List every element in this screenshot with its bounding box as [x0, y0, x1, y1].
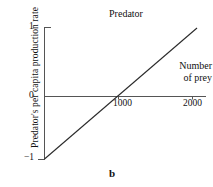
- y-tick-label-0: 0: [29, 90, 34, 100]
- x-axis-label: Number of prey: [150, 60, 212, 84]
- figure-panel-b: Predator's per capita production rate Pr…: [0, 0, 213, 187]
- x-axis-label-line2: of prey: [150, 72, 212, 84]
- y-tick-label-minus-1: −1: [24, 152, 34, 162]
- panel-caption: b: [92, 167, 132, 179]
- x-tick-label-2000: 2000: [183, 98, 202, 108]
- data-line-production-rate: [45, 28, 198, 159]
- x-tick-label-1000: 1000: [113, 98, 132, 108]
- x-axis-label-line1: Number: [150, 60, 212, 72]
- y-tick-label-1: 1: [29, 21, 34, 31]
